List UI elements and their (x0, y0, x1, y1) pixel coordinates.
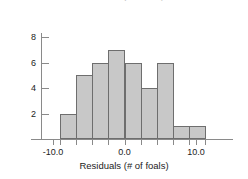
histogram-bar (60, 114, 77, 140)
x-tick-mark (205, 140, 206, 145)
y-tick-label: 4 (22, 84, 36, 93)
y-tick-mark (42, 37, 49, 38)
histogram-bar (141, 88, 158, 139)
y-tick-mark (42, 114, 49, 115)
histogram-bar (76, 75, 93, 139)
x-tick-mark (108, 140, 109, 145)
x-tick-mark-major (53, 140, 54, 145)
histogram-bar (125, 63, 142, 140)
x-tick-label: 10.0 (176, 147, 216, 157)
x-tick-mark (157, 140, 158, 145)
x-tick-mark (92, 140, 93, 145)
histogram-bar (189, 126, 206, 139)
y-tick-label: 6 (22, 59, 36, 68)
x-tick-label: -10.0 (33, 147, 73, 157)
y-axis-line (41, 33, 42, 140)
histogram-bar (92, 63, 109, 140)
x-axis-line (31, 139, 233, 140)
x-axis-title: Residuals (# of foals) (0, 160, 248, 171)
histogram-figure: Residuals (# of foals) 2468 -10.00.010.0… (0, 0, 248, 179)
histogram-bar (108, 50, 125, 139)
plot-area: 2468 -10.00.010.0 (0, 0, 248, 179)
y-tick-label: 2 (22, 110, 36, 119)
histogram-bar (173, 126, 190, 139)
x-tick-mark (76, 140, 77, 145)
x-tick-mark (173, 140, 174, 145)
y-tick-mark (42, 63, 49, 64)
x-tick-mark (189, 140, 190, 145)
x-tick-mark-major (125, 140, 126, 145)
x-tick-mark (141, 140, 142, 145)
y-tick-label: 8 (22, 33, 36, 42)
x-tick-mark (60, 140, 61, 145)
y-tick-mark (42, 88, 49, 89)
x-tick-mark-major (196, 140, 197, 145)
x-tick-label: 0.0 (105, 147, 145, 157)
histogram-bar (157, 63, 174, 140)
